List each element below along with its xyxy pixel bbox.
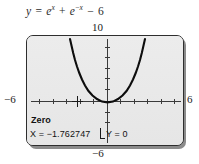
equation-term1-exponent: x (51, 3, 55, 12)
readout-y-caret-icon (100, 128, 105, 139)
y-min-label: −6 (92, 147, 104, 159)
equation-equals: = (34, 5, 43, 17)
equation-minus: − (86, 5, 95, 17)
function-curve-path (70, 39, 145, 102)
equation-plus: + (58, 5, 67, 17)
y-max-label: 10 (92, 21, 103, 33)
plot-area: Zero X = −1.762747 Y = 0 (27, 36, 183, 145)
readout-y-value: Y = 0 (106, 129, 128, 139)
trace-cursor-icon (72, 96, 83, 107)
x-min-label: −6 (4, 93, 16, 105)
x-max-label: 6 (187, 93, 193, 105)
equation-term2-exponent: −x (75, 3, 83, 12)
readout-mode-label: Zero (31, 115, 51, 125)
readout-x-value: X = −1.762747 (30, 129, 90, 139)
equation-lhs: y (26, 5, 31, 17)
equation-constant: 6 (98, 5, 104, 17)
calculator-screen: Zero X = −1.762747 Y = 0 (26, 35, 184, 146)
equation-term2-exponent-var: x (80, 3, 84, 12)
